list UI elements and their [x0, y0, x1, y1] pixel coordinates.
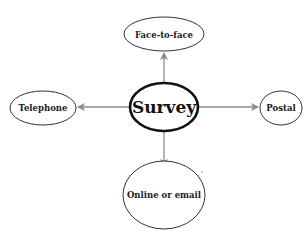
node-online-or-email-label: Online or email — [127, 190, 202, 200]
node-face-to-face: Face-to-face — [124, 17, 204, 51]
node-postal: Postal — [260, 91, 302, 125]
survey-methods-diagram: Face-to-face Telephone Postal Online or … — [0, 0, 307, 236]
node-telephone: Telephone — [10, 91, 76, 125]
node-face-to-face-label: Face-to-face — [135, 30, 194, 40]
node-online-or-email: Online or email — [123, 161, 205, 229]
node-survey-label: Survey — [132, 97, 197, 117]
diagram-svg: Face-to-face Telephone Postal Online or … — [0, 0, 307, 236]
node-survey-center: Survey — [130, 83, 198, 131]
node-telephone-label: Telephone — [19, 103, 68, 113]
scan-speck — [201, 171, 202, 172]
node-postal-label: Postal — [266, 103, 296, 113]
